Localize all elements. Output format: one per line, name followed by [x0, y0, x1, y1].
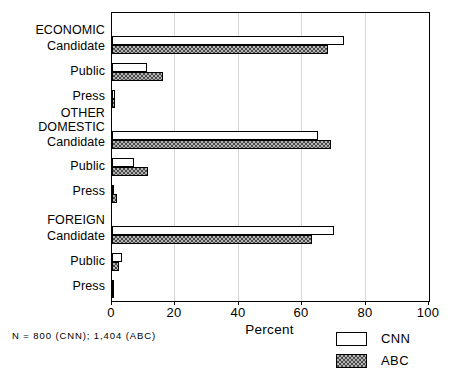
axis-label-candidate-2: Candidate [0, 135, 105, 149]
group-label-economic: ECONOMIC [0, 23, 105, 37]
tick-label-60: 60 [281, 305, 321, 320]
sample-size-footnote: N = 800 (CNN); 1,404 (ABC) [12, 330, 156, 341]
axis-label-press-2: Press [0, 184, 105, 198]
axis-label-public-1: Public [0, 64, 105, 78]
tick-label-100: 100 [408, 305, 448, 320]
axis-label-press-3: Press [0, 279, 105, 293]
axis-label-public-3: Public [0, 254, 105, 268]
tick-label-80: 80 [345, 305, 385, 320]
bar-chart: ECONOMIC Candidate Public Press OTHER DO… [0, 0, 450, 377]
axis-label-press-1: Press [0, 89, 105, 103]
group-label-other: OTHER [0, 106, 105, 120]
tick-label-40: 40 [218, 305, 258, 320]
group-label-domestic: DOMESTIC [0, 120, 105, 134]
group-label-foreign: FOREIGN [0, 213, 105, 227]
category-axis: ECONOMIC Candidate Public Press OTHER DO… [0, 0, 450, 377]
legend-label-abc: ABC [381, 353, 409, 368]
axis-label-public-2: Public [0, 159, 105, 173]
axis-label-candidate-3: Candidate [0, 229, 105, 243]
legend-swatch-abc [336, 354, 367, 368]
tick-label-20: 20 [154, 305, 194, 320]
legend-swatch-cnn [336, 332, 367, 346]
legend-label-cnn: CNN [381, 331, 410, 346]
tick-label-0: 0 [91, 305, 131, 320]
axis-label-candidate-1: Candidate [0, 39, 105, 53]
